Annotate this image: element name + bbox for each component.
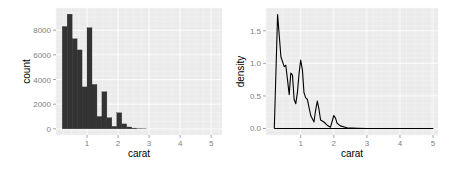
histogram-bar [62,26,67,128]
histogram-bar [127,127,132,129]
density-chart: 123450.00.51.01.5caratdensity [228,0,457,170]
x-tick-label: 4 [398,139,403,148]
x-tick-label: 5 [431,139,436,148]
histogram-bar [117,113,122,129]
y-tick-label: 1.0 [250,59,262,68]
histogram-bar [97,117,102,129]
histogram-chart: 1234502000400060008000caratcount [0,0,228,170]
histogram-bar [122,124,127,129]
x-axis-label: carat [128,148,150,159]
histogram-bar [77,50,82,129]
x-tick-label: 4 [178,139,183,148]
y-tick-label: 0.0 [250,124,262,133]
x-tick-label: 3 [365,139,370,148]
x-tick-label: 1 [299,139,304,148]
x-tick-label: 5 [209,139,214,148]
y-axis-label: density [235,56,246,88]
y-tick-label: 0.5 [250,92,262,101]
y-tick-label: 4000 [33,76,51,85]
histogram-bar [112,126,117,128]
histogram-bar [102,92,107,129]
histogram-bar [87,28,92,129]
histogram-bar [92,84,97,128]
x-tick-label: 3 [147,139,152,148]
histogram-bar [107,118,112,129]
y-tick-label: 8000 [33,26,51,35]
x-tick-label: 2 [332,139,337,148]
histogram-bar [67,14,72,129]
x-axis-label: carat [341,148,363,159]
y-tick-label: 2000 [33,100,51,109]
x-tick-label: 1 [85,139,90,148]
y-tick-label: 0 [47,125,52,134]
histogram-bar [132,128,137,129]
y-tick-label: 1.5 [250,27,262,36]
histogram-bar [72,39,77,129]
y-tick-label: 6000 [33,51,51,60]
histogram-bar [82,87,87,129]
y-axis-label: count [21,59,32,84]
x-tick-label: 2 [116,139,121,148]
